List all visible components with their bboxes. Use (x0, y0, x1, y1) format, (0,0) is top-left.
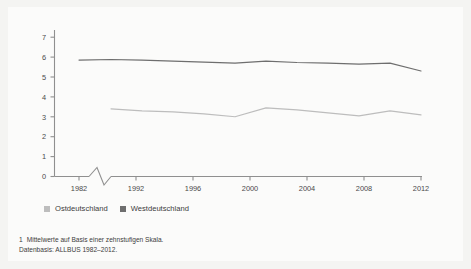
x-tick-label: 2000 (242, 184, 258, 193)
x-axis-tick-labels: 1982 1992 1996 2000 2004 2008 2012 (71, 184, 429, 193)
x-tick-label: 1992 (128, 184, 144, 193)
x-tick-label: 2004 (299, 184, 315, 193)
y-tick-label: 6 (42, 53, 46, 62)
x-axis-break-zigzag (89, 168, 111, 186)
chart-footnote: 1Mittelwerte auf Basis einer zehnstufige… (19, 235, 163, 255)
legend-item-westdeutschland[interactable]: Westdeutschland (120, 204, 189, 213)
legend-label: Ostdeutschland (55, 204, 108, 213)
footnote-line-1: 1Mittelwerte auf Basis einer zehnstufige… (19, 235, 163, 245)
y-tick-label: 1 (42, 152, 46, 161)
chart-plot-area: 0 1 2 3 4 5 6 7 (8, 7, 463, 261)
footnote-line-2: Datenbasis: ALLBUS 1982–2012. (19, 245, 163, 255)
footnote-marker: 1 (19, 236, 23, 243)
x-tick-label: 2012 (413, 184, 429, 193)
legend-item-ostdeutschland[interactable]: Ostdeutschland (44, 204, 108, 213)
chart-card: 0 1 2 3 4 5 6 7 (8, 7, 463, 261)
legend-swatch-icon (120, 206, 126, 212)
legend-label: Westdeutschland (131, 204, 189, 213)
x-tick-label: 2008 (356, 184, 372, 193)
y-tick-label: 3 (42, 113, 46, 122)
chart-legend: Ostdeutschland Westdeutschland (44, 204, 189, 213)
y-tick-label: 4 (42, 93, 46, 102)
footnote-text: Mittelwerte auf Basis einer zehnstufigen… (27, 236, 164, 243)
line-chart-svg: 0 1 2 3 4 5 6 7 (8, 7, 463, 261)
screenshot-root: 0 1 2 3 4 5 6 7 (0, 0, 471, 269)
y-tick-label: 0 (42, 172, 46, 181)
x-axis-ticks (79, 177, 421, 181)
y-tick-label: 2 (42, 132, 46, 141)
y-tick-label: 5 (42, 73, 46, 82)
y-axis-ticks (51, 37, 55, 176)
series-line-ostdeutschland (111, 108, 421, 117)
series-line-westdeutschland (79, 59, 421, 71)
x-tick-label: 1996 (185, 184, 201, 193)
y-tick-label: 7 (42, 33, 46, 42)
legend-swatch-icon (44, 206, 50, 212)
y-axis-tick-labels: 0 1 2 3 4 5 6 7 (42, 33, 46, 181)
x-tick-label: 1982 (71, 184, 87, 193)
